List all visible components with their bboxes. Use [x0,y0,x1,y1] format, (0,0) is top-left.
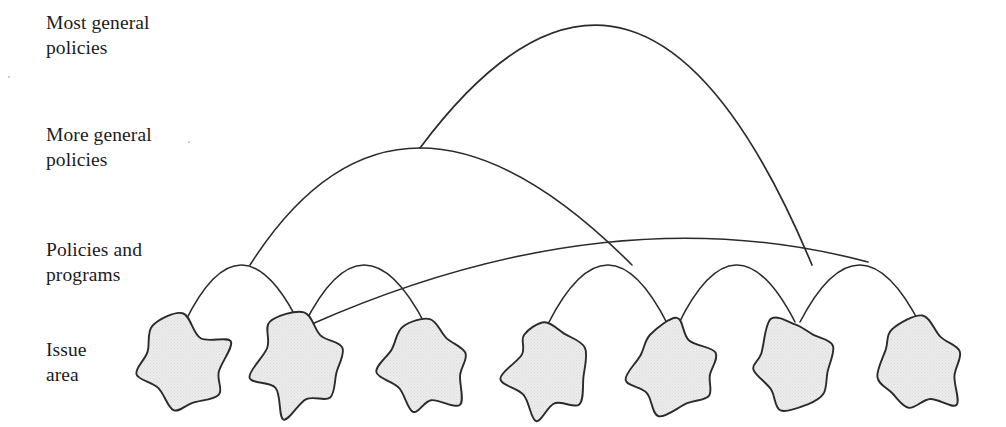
connector-arc-level-3 [548,265,668,325]
connector-arc-level-3 [678,265,795,325]
policy-hierarchy-figure: Most general policies More general polic… [0,0,1006,427]
scan-artifact-speck [188,141,190,143]
issue-area-blob [877,315,960,407]
scan-artifact-speck [8,76,10,78]
issue-area-blob [626,318,717,417]
issue-area-blob [500,322,586,421]
tier-label-issue-area: Issue area [46,337,87,387]
connector-arc-level-1 [420,25,812,265]
issue-area-blob-layer [136,312,960,421]
connector-arc-level-3 [800,265,920,324]
issue-area-blob [249,312,343,420]
tier-label-more-general-policies: More general policies [46,122,152,172]
issue-area-blob [376,319,466,412]
connector-arc-level-3 [304,265,425,325]
tier-label-policies-and-programs: Policies and programs [46,237,142,287]
issue-area-blob [753,318,833,412]
tier-label-most-general-policies: Most general policies [46,10,150,60]
diagram-canvas [0,0,1006,427]
issue-area-blob [136,313,231,411]
arc-layer [185,25,920,325]
connector-arc-level-2 [250,148,632,265]
